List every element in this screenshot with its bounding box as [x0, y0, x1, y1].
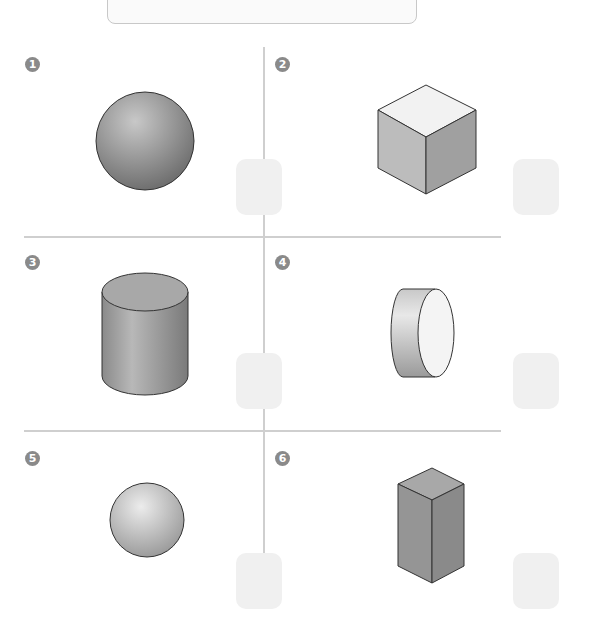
- title-box: [107, 0, 417, 24]
- row-divider-2: [24, 430, 501, 432]
- item-number-badge: 1: [25, 57, 40, 72]
- sphere-icon: [94, 90, 196, 192]
- answer-box-1[interactable]: [236, 159, 282, 215]
- item-number-badge: 5: [25, 451, 40, 466]
- row-divider-1: [24, 236, 501, 238]
- rectangular-prism-icon: [396, 467, 466, 585]
- item-number-badge: 4: [275, 255, 290, 270]
- lying-cylinder-icon: [389, 287, 469, 379]
- item-number-badge: 3: [25, 255, 40, 270]
- answer-box-3[interactable]: [236, 353, 282, 409]
- item-number-badge: 6: [275, 451, 290, 466]
- item-number-badge: 2: [275, 57, 290, 72]
- answer-box-6[interactable]: [513, 553, 559, 609]
- answer-box-4[interactable]: [513, 353, 559, 409]
- answer-box-5[interactable]: [236, 553, 282, 609]
- cylinder-icon: [100, 272, 190, 398]
- cube-icon: [376, 84, 478, 196]
- answer-box-2[interactable]: [513, 159, 559, 215]
- vertical-divider: [263, 47, 265, 607]
- small-sphere-icon: [108, 481, 186, 559]
